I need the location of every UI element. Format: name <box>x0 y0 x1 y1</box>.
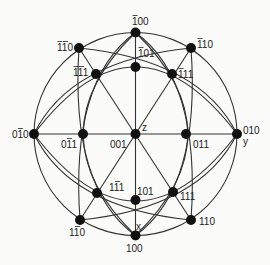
label-0minus10: 010 <box>12 129 29 140</box>
pole-minus111 <box>167 69 177 79</box>
pole-minus110 <box>186 43 196 53</box>
axis-label-z: z <box>142 122 147 133</box>
label-minus111: 111 <box>178 69 194 80</box>
pole-minus100 <box>131 28 141 38</box>
pole-111 <box>168 187 178 197</box>
pole-minus1minus10 <box>74 43 84 53</box>
label-110: 110 <box>199 216 215 227</box>
pole-011 <box>181 129 191 139</box>
pole-0minus10 <box>29 129 39 139</box>
label-011: 011 <box>193 139 209 150</box>
label-minus110: 110 <box>197 39 213 50</box>
projection-svg: 100 101 110 110 111 111 010 011 001 011 … <box>0 0 270 265</box>
axis-label-x: x <box>136 221 141 232</box>
label-minus101: 101 <box>138 48 155 59</box>
label-minus1minus10: 110 <box>57 42 73 53</box>
pole-minus101 <box>131 62 141 72</box>
pole-001 <box>131 129 141 139</box>
label-0minus11: 011 <box>61 139 77 150</box>
label-minus100: 100 <box>132 16 149 27</box>
label-111: 111 <box>180 191 196 202</box>
label-010: 010 <box>243 125 260 136</box>
pole-110 <box>186 215 196 225</box>
arc-010-to-minus1minus10 <box>79 48 237 134</box>
label-101: 101 <box>137 186 154 197</box>
label-1minus10: 110 <box>69 227 85 238</box>
pole-010 <box>232 129 242 139</box>
arc-010-to-1minus10 <box>80 134 237 220</box>
stereographic-projection-diagram: 100 101 110 110 111 111 010 011 001 011 … <box>0 0 270 265</box>
pole-0minus11 <box>78 129 88 139</box>
pole-1minus10 <box>75 215 85 225</box>
pole-100 <box>131 231 141 241</box>
arc-0minus10-to-minus110 <box>34 48 191 134</box>
label-minus1minus11: 111 <box>73 67 89 78</box>
pole-minus1minus11 <box>91 69 101 79</box>
axis-label-y: y <box>243 136 248 147</box>
label-001: 001 <box>110 139 127 150</box>
pole-1minus11 <box>92 188 102 198</box>
label-100: 100 <box>126 243 143 254</box>
label-1minus11: 111 <box>109 182 125 193</box>
